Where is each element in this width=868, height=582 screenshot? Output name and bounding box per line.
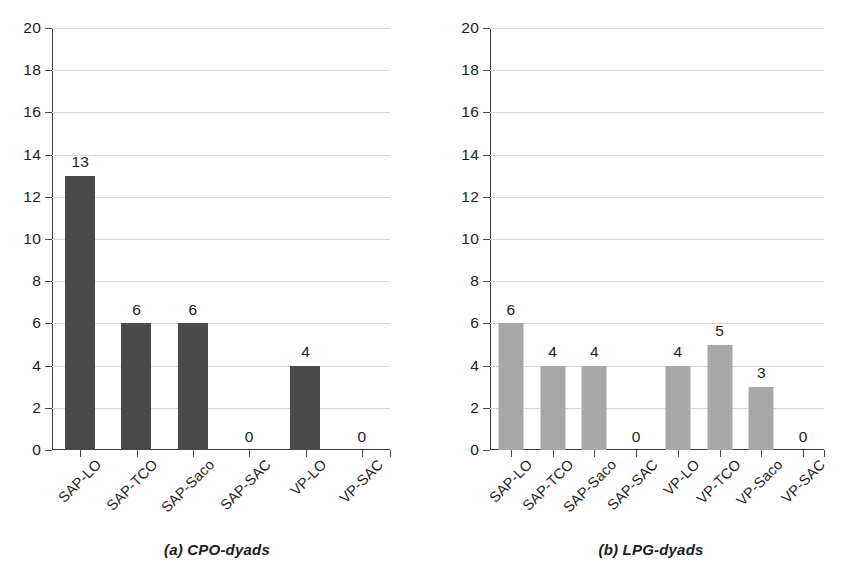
- bar: [582, 366, 607, 450]
- bar-value-label: 4: [301, 344, 310, 360]
- y-axis-tick-label: 0: [32, 442, 41, 458]
- y-axis-tick-label: 16: [23, 105, 41, 121]
- bar-group: 6: [108, 28, 164, 450]
- x-axis-tick: [824, 450, 825, 457]
- y-axis-tick-label: 12: [461, 189, 479, 205]
- plot-area-b: 02468101214161820 64404530 SAP-LOSAP-TCO…: [490, 28, 824, 450]
- x-axis-tick: [553, 450, 554, 457]
- bar-value-label: 3: [757, 365, 766, 381]
- bar-group: 4: [532, 28, 574, 450]
- x-axis-tick: [390, 450, 391, 457]
- bar-group: 0: [615, 28, 657, 450]
- x-axis-tick: [306, 450, 307, 457]
- x-axis-tick-label: VP-LO: [288, 457, 329, 498]
- x-axis-tick: [720, 450, 721, 457]
- y-axis-tick-label: 14: [461, 147, 479, 163]
- bar-value-label: 4: [590, 344, 599, 360]
- y-axis-tick: [483, 281, 490, 282]
- bar-value-label: 0: [632, 429, 641, 445]
- x-axis-tick: [761, 450, 762, 457]
- bar-group: 13: [52, 28, 108, 450]
- x-axis-tick: [137, 450, 138, 457]
- bar: [665, 366, 690, 450]
- y-axis-tick-label: 10: [461, 231, 479, 247]
- x-axis-tick: [803, 450, 804, 457]
- y-axis-tick-label: 4: [470, 358, 479, 374]
- x-axis-tick: [594, 450, 595, 457]
- y-axis-tick: [45, 450, 52, 451]
- bar-group: 0: [221, 28, 277, 450]
- y-axis-tick-label: 2: [470, 400, 479, 416]
- y-axis-tick-label: 6: [470, 316, 479, 332]
- bars-b: 64404530: [490, 28, 824, 450]
- bar: [498, 323, 523, 450]
- plot-area-a: 02468101214161820 1366040 SAP-LOSAP-TCOS…: [52, 28, 390, 450]
- y-axis-tick: [483, 197, 490, 198]
- y-axis-tick: [45, 239, 52, 240]
- y-axis-tick-label: 10: [23, 231, 41, 247]
- bar-group: 6: [165, 28, 221, 450]
- y-axis-tick-label: 16: [461, 105, 479, 121]
- y-axis-tick-label: 8: [32, 273, 41, 289]
- y-axis-tick-label: 20: [461, 20, 479, 36]
- bar-group: 4: [277, 28, 333, 450]
- y-axis-tick: [483, 112, 490, 113]
- bar-value-label: 6: [189, 302, 198, 318]
- y-axis-tick-label: 4: [32, 358, 41, 374]
- bar-value-label: 5: [715, 323, 724, 339]
- y-axis-tick: [45, 155, 52, 156]
- y-axis-tick: [483, 450, 490, 451]
- x-axis-tick: [193, 450, 194, 457]
- x-axis-tick-label: VP-SAC: [779, 457, 828, 506]
- panel-caption-a: (a) CPO-dyads: [0, 541, 434, 558]
- y-axis-tick: [483, 323, 490, 324]
- bar-value-label: 4: [674, 344, 683, 360]
- y-axis-tick-label: 20: [23, 20, 41, 36]
- y-axis-tick-label: 12: [23, 189, 41, 205]
- x-axis-tick: [678, 450, 679, 457]
- chart-panel-b: 02468101214161820 64404530 SAP-LOSAP-TCO…: [434, 0, 868, 582]
- bar: [178, 323, 208, 450]
- y-axis-tick: [483, 28, 490, 29]
- bar-value-label: 4: [548, 344, 557, 360]
- y-axis-tick: [45, 408, 52, 409]
- y-axis-tick-label: 18: [461, 62, 479, 78]
- x-axis-tick-label: SAP-LO: [56, 457, 104, 505]
- x-axis-tick-label: VP-SAC: [337, 457, 386, 506]
- y-axis-tick: [45, 70, 52, 71]
- y-axis-tick: [45, 281, 52, 282]
- x-axis-tick: [249, 450, 250, 457]
- bar-value-label: 13: [72, 154, 89, 170]
- bar-value-label: 6: [132, 302, 141, 318]
- x-axis-tick-label: SAP-Saco: [159, 457, 217, 515]
- bar: [121, 323, 151, 450]
- bar-value-label: 6: [507, 302, 516, 318]
- y-axis-tick-label: 6: [32, 316, 41, 332]
- y-axis-tick: [483, 366, 490, 367]
- y-axis-tick: [45, 366, 52, 367]
- x-axis-tick-label: VP-Saco: [734, 457, 785, 508]
- bar-value-label: 0: [245, 429, 254, 445]
- bar-value-label: 0: [358, 429, 367, 445]
- bars-a: 1366040: [52, 28, 390, 450]
- figure-container: 02468101214161820 1366040 SAP-LOSAP-TCOS…: [0, 0, 868, 582]
- x-axis-tick: [362, 450, 363, 457]
- x-axis-tick: [80, 450, 81, 457]
- x-axis-tick: [636, 450, 637, 457]
- bar: [540, 366, 565, 450]
- bar-value-label: 0: [799, 429, 808, 445]
- y-axis-tick: [483, 70, 490, 71]
- bar-group: 3: [741, 28, 783, 450]
- x-axis-tick-label: SAP-SAC: [218, 457, 274, 513]
- bar: [65, 176, 95, 450]
- y-axis-tick: [45, 28, 52, 29]
- panel-caption-b: (b) LPG-dyads: [434, 541, 868, 558]
- bar-group: 0: [334, 28, 390, 450]
- y-axis-tick-label: 2: [32, 400, 41, 416]
- bar: [749, 387, 774, 450]
- y-axis-tick: [483, 408, 490, 409]
- y-axis-tick-label: 8: [470, 273, 479, 289]
- bar: [290, 366, 320, 450]
- bar-group: 6: [490, 28, 532, 450]
- y-axis-tick-label: 18: [23, 62, 41, 78]
